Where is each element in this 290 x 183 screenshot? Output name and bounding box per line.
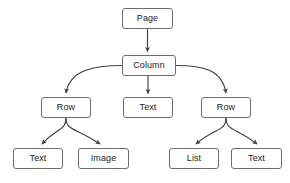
node-row-left[interactable]: Row xyxy=(41,97,91,118)
node-image-leaf[interactable]: Image xyxy=(78,148,129,169)
edge-column-to-row-left xyxy=(66,66,122,94)
edge-row-right-to-list xyxy=(196,118,226,144)
node-text-leaf-1-label: Text xyxy=(30,154,47,163)
node-row-left-label: Row xyxy=(57,103,75,112)
edge-row-left-to-text xyxy=(42,118,66,144)
node-column[interactable]: Column xyxy=(122,55,176,76)
node-page[interactable]: Page xyxy=(122,8,173,29)
node-text-leaf-2-label: Text xyxy=(248,154,265,163)
node-text-leaf-1[interactable]: Text xyxy=(13,148,63,169)
node-image-leaf-label: Image xyxy=(91,154,117,163)
node-row-right-label: Row xyxy=(217,103,235,112)
node-list-leaf[interactable]: List xyxy=(169,148,219,169)
edge-column-to-row-right xyxy=(176,66,226,94)
edge-row-left-to-image xyxy=(66,118,100,144)
node-text-middle-label: Text xyxy=(140,103,157,112)
layout-tree-diagram: Page Column Row Text Row Text Image List… xyxy=(0,0,290,183)
node-text-leaf-2[interactable]: Text xyxy=(231,148,282,169)
node-row-right[interactable]: Row xyxy=(201,97,251,118)
node-list-leaf-label: List xyxy=(187,154,201,163)
edge-row-right-to-text xyxy=(226,118,257,144)
node-page-label: Page xyxy=(137,14,158,23)
node-column-label: Column xyxy=(133,61,165,70)
node-text-middle[interactable]: Text xyxy=(123,97,173,118)
